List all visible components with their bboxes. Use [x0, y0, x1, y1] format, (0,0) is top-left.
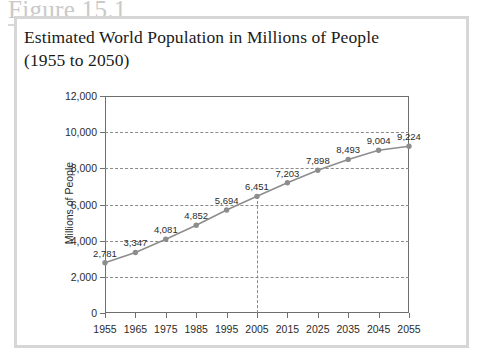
x-tick-label: 1995: [215, 323, 238, 335]
x-tick-label: 1975: [154, 323, 177, 335]
y-tick-label: 12,000: [65, 90, 97, 102]
data-point-label: 2,781: [93, 248, 117, 259]
x-tick-mark: [105, 313, 106, 318]
x-tick-mark: [348, 313, 349, 318]
x-tick-label: 2045: [367, 323, 390, 335]
data-point-label: 4,081: [154, 224, 178, 235]
y-tick-mark: [100, 96, 105, 97]
x-tick-mark: [227, 313, 228, 318]
data-point-marker: [406, 144, 411, 149]
x-tick-mark: [379, 313, 380, 318]
x-tick-mark: [409, 313, 410, 318]
data-point-label: 7,898: [306, 155, 330, 166]
data-point-label: 9,224: [397, 131, 421, 142]
plot-area: [105, 96, 409, 313]
data-point-marker: [133, 250, 138, 255]
data-point-label: 9,004: [367, 135, 391, 146]
x-tick-mark: [287, 313, 288, 318]
data-point-marker: [285, 180, 290, 185]
data-point-label: 4,852: [184, 210, 208, 221]
y-tick-label: 0: [91, 307, 97, 319]
y-tick-label: 10,000: [65, 126, 97, 138]
y-tick-mark: [100, 277, 105, 278]
y-tick-mark: [100, 132, 105, 133]
y-axis-title: Millions of People: [63, 143, 75, 263]
data-point-label: 6,451: [245, 181, 269, 192]
data-point-label: 8,493: [336, 144, 360, 155]
x-tick-label: 2055: [397, 323, 420, 335]
data-point-label: 3,347: [124, 237, 148, 248]
y-tick-mark: [100, 168, 105, 169]
data-point-marker: [194, 223, 199, 228]
x-tick-label: 2035: [337, 323, 360, 335]
data-point-marker: [376, 147, 381, 152]
reference-line-2005: [257, 196, 258, 313]
x-tick-label: 1955: [93, 323, 116, 335]
y-tick-mark: [100, 241, 105, 242]
data-point-marker: [346, 157, 351, 162]
y-tick-mark: [100, 205, 105, 206]
gridline-y: [105, 168, 409, 169]
data-point-marker: [102, 260, 107, 265]
x-tick-label: 1965: [124, 323, 147, 335]
x-tick-mark: [257, 313, 258, 318]
x-tick-label: 1985: [185, 323, 208, 335]
chart-title: Estimated World Population in Millions o…: [24, 26, 379, 72]
data-point-label: 7,203: [276, 168, 300, 179]
gridline-y: [105, 132, 409, 133]
x-tick-mark: [318, 313, 319, 318]
y-tick-label: 2,000: [71, 271, 97, 283]
x-tick-label: 2005: [245, 323, 268, 335]
x-tick-label: 2015: [276, 323, 299, 335]
x-tick-label: 2025: [306, 323, 329, 335]
data-point-label: 5,694: [215, 195, 239, 206]
x-tick-mark: [135, 313, 136, 318]
x-tick-mark: [196, 313, 197, 318]
data-point-marker: [224, 207, 229, 212]
figure-root: Figure 15.1 Estimated World Population i…: [0, 0, 484, 362]
x-tick-mark: [166, 313, 167, 318]
